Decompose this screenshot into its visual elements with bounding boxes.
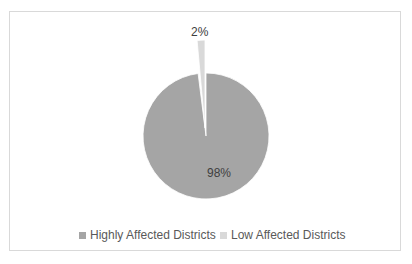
- data-label-highly-affected: 98%: [207, 166, 231, 180]
- legend-label: Highly Affected Districts: [90, 228, 216, 242]
- data-label-low-affected: 2%: [191, 25, 208, 39]
- legend-swatch-icon: [79, 232, 86, 239]
- pie-slice-highly-affected[interactable]: [143, 73, 269, 199]
- legend-swatch-icon: [220, 232, 227, 239]
- pie-chart: [0, 0, 412, 264]
- legend: Highly Affected Districts Low Affected D…: [0, 228, 412, 244]
- legend-label: Low Affected Districts: [231, 228, 346, 242]
- legend-item-highly-affected[interactable]: Highly Affected Districts: [79, 228, 216, 242]
- legend-item-low-affected[interactable]: Low Affected Districts: [220, 228, 346, 242]
